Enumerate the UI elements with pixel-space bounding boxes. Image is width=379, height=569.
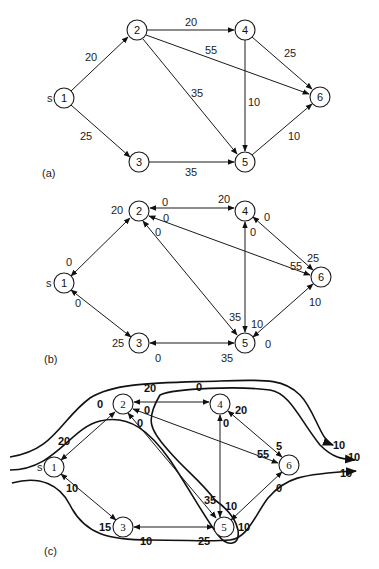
source-marker: s [46,277,52,289]
svg-text:4: 4 [242,24,248,36]
residual-label-4-5: 0 [250,226,256,238]
node-4: 4 [210,394,230,414]
capacity-label-5-6: 10 [288,130,300,142]
residual-label-2-5: 0 [155,226,161,238]
residual-label-4-2: 20 [218,193,230,205]
svg-text:2: 2 [136,205,142,217]
edge-1-2 [71,37,128,91]
node-2: 2 [113,394,133,414]
svg-text:3: 3 [136,156,142,168]
svg-text:1: 1 [51,461,57,473]
residual-label-3-5: 10 [140,535,152,547]
svg-text:5: 5 [242,337,248,349]
residual-label-4-6: 0 [264,211,270,223]
edge-5-6 [252,104,312,155]
residual-label-1-3: 0 [75,297,81,309]
capacity-label-1-3: 25 [80,130,92,142]
residual-edge-2-5 [143,221,237,335]
svg-text:5: 5 [242,156,248,168]
max-flow-diagram: 20 25 20 55 35 10 25 35 10 1 2 3 4 5 6 s… [0,0,379,569]
svg-text:3: 3 [120,521,126,533]
residual-label-1-3: 10 [66,482,78,494]
residual-label-5-4: 10 [251,318,263,330]
edge-4-6 [252,37,312,89]
panel-c: 0 20 10 15 20 0 0 55 0 35 0 10 20 5 10 2… [10,380,360,557]
residual-label-2-1: 0 [97,398,103,410]
panel-label: (b) [44,353,57,365]
node-3: 3 [129,333,149,353]
flow-output-label: 10 [340,467,352,479]
node-4: 4 [235,20,255,40]
residual-label-6-5: 10 [309,296,321,308]
residual-edge-4-6 [253,217,313,270]
residual-label-2-1: 20 [111,204,123,216]
residual-label-2-4: 20 [144,382,156,394]
residual-label-6-4: 5 [276,440,282,452]
capacity-label-1-2: 20 [85,51,97,63]
capacity-label-2-4: 20 [185,16,197,28]
residual-label-2-4: 0 [162,196,168,208]
residual-edge-5-6 [231,472,282,520]
node-4: 4 [235,201,255,221]
residual-label-5-4: 10 [225,500,237,512]
capacity-label-3-5: 35 [185,166,197,178]
source-marker: s [37,461,43,473]
residual-label-6-5: 0 [276,482,282,494]
panel-label: (a) [42,167,55,179]
svg-text:1: 1 [61,277,67,289]
residual-label-3-1: 25 [112,337,124,349]
capacity-label-2-5: 35 [191,87,203,99]
residual-label-2-6: 0 [144,404,150,416]
svg-text:6: 6 [318,271,324,283]
residual-label-5-3: 25 [198,535,210,547]
capacity-label-4-5: 10 [248,96,260,108]
residual-label-2-5: 0 [137,417,143,429]
residual-edge-1-3 [61,474,116,520]
node-6: 6 [310,87,330,107]
svg-text:4: 4 [217,398,223,410]
residual-label-4-6: 20 [235,404,247,416]
node-5: 5 [235,333,255,353]
node-3: 3 [113,517,133,537]
residual-edge-1-2 [71,218,130,276]
svg-text:5: 5 [221,521,227,533]
source-marker: s [47,92,53,104]
residual-edge-4-6 [228,411,282,457]
residual-label-1-2: 20 [58,435,70,447]
svg-text:2: 2 [134,24,140,36]
svg-text:3: 3 [136,337,142,349]
node-6: 6 [311,267,331,287]
residual-label-1-2: 0 [66,256,72,268]
residual-label-2-6: 0 [163,212,169,224]
flow-output-label: 10 [348,451,360,463]
node-6: 6 [279,455,299,475]
panel-b: 20 0 0 25 0 20 0 55 0 35 0 10 0 25 0 35 … [44,193,331,365]
panel-label: (c) [44,545,57,557]
residual-label-5-2: 35 [204,494,216,506]
svg-text:6: 6 [317,91,323,103]
node-2: 2 [129,201,149,221]
svg-text:4: 4 [242,205,248,217]
residual-label-6-2: 55 [257,448,269,460]
svg-text:6: 6 [286,459,292,471]
residual-label-5-6: 10 [238,521,250,533]
residual-label-4-5: 0 [223,417,229,429]
flow-output-label: 10 [333,439,345,451]
residual-label-3-1: 15 [99,521,111,533]
residual-label-6-4: 25 [307,252,319,264]
capacity-label-2-6: 55 [205,44,217,56]
node-5: 5 [235,152,255,172]
svg-text:2: 2 [120,398,126,410]
panel-a: 20 25 20 55 35 10 25 35 10 1 2 3 4 5 6 s… [42,16,330,179]
residual-label-5-6: 0 [265,338,271,350]
edge-2-6 [146,35,309,94]
residual-label-5-3: 35 [221,352,233,364]
residual-label-5-2: 35 [229,311,241,323]
residual-label-4-2: 0 [196,381,202,393]
svg-text:1: 1 [61,92,67,104]
node-2: 2 [127,20,147,40]
node-5: 5 [214,517,234,537]
node-1: 1 [54,88,74,108]
node-3: 3 [129,152,149,172]
residual-label-6-2: 55 [290,260,302,272]
